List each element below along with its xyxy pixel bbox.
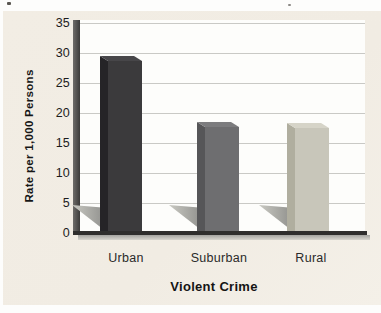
x-axis-title: Violent Crime (170, 279, 257, 294)
category-label-suburban: Suburban (191, 251, 248, 265)
y-axis-title: Rate per 1,000 Persons (23, 69, 35, 202)
bar-side-face (197, 122, 205, 233)
y-tick-label-0: 0 (34, 225, 70, 241)
bar-side-face (287, 123, 295, 233)
y-tick-label-35: 35 (34, 15, 70, 31)
bar-rural (287, 123, 329, 233)
y-tick-label-15: 15 (34, 135, 70, 151)
bar-front-face (295, 128, 329, 233)
bar-suburban (197, 122, 239, 233)
y-tick-label-10: 10 (34, 165, 70, 181)
scanned-bar-chart-figure: 05101520253035 Rate per 1,000 Persons Ur… (0, 0, 381, 313)
bar-urban (100, 56, 142, 233)
y-tick-label-30: 30 (34, 45, 70, 61)
category-label-rural: Rural (295, 251, 326, 265)
y-tick-label-20: 20 (34, 105, 70, 121)
category-label-urban: Urban (108, 251, 144, 265)
x-axis-floor-shadow (78, 235, 370, 240)
bars-group (100, 56, 329, 233)
bar-front-face (205, 127, 239, 233)
bar-front-face (108, 61, 142, 233)
bar-side-face (100, 56, 108, 233)
y-tick-label-25: 25 (34, 75, 70, 91)
y-tick-label-5: 5 (34, 195, 70, 211)
